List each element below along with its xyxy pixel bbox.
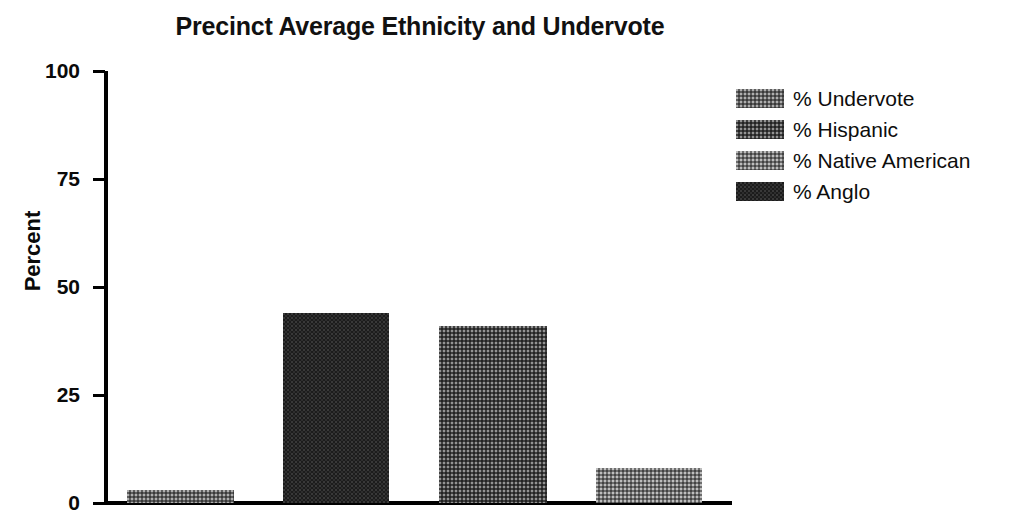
- legend-item-label: % Native American: [793, 150, 970, 171]
- legend-swatch-icon: [736, 151, 784, 170]
- bar: [283, 313, 389, 503]
- bar: [127, 490, 234, 503]
- legend-item-label: % Hispanic: [793, 119, 898, 140]
- legend-swatch-icon: [736, 89, 784, 108]
- legend-item-label: % Anglo: [793, 181, 870, 202]
- bar: [439, 326, 547, 503]
- legend-swatch-icon: [736, 182, 784, 201]
- y-tick-label: 50: [18, 276, 80, 297]
- y-tick-label: 25: [18, 384, 80, 405]
- bar: [596, 468, 702, 503]
- y-tick-label: 0: [18, 492, 80, 513]
- legend-item: % Undervote: [736, 84, 1008, 113]
- chart-legend: % Undervote% Hispanic% Native American% …: [736, 84, 1008, 208]
- y-tick-label: 100: [18, 60, 80, 81]
- legend-item: % Hispanic: [736, 115, 1008, 144]
- chart-title: Precinct Average Ethnicity and Undervote: [110, 12, 730, 41]
- y-tick-label: 75: [18, 168, 80, 189]
- legend-item: % Anglo: [736, 177, 1008, 206]
- bars-layer: [104, 71, 732, 503]
- legend-swatch-icon: [736, 120, 784, 139]
- chart-figure: Precinct Average Ethnicity and Undervote…: [0, 0, 1012, 529]
- legend-item: % Native American: [736, 146, 1008, 175]
- legend-item-label: % Undervote: [793, 88, 914, 109]
